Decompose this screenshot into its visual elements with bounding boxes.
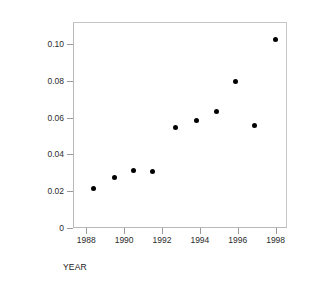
x-axis-tick-mark — [86, 228, 87, 234]
data-point — [273, 37, 278, 42]
y-axis-tick-label: 0.10 — [24, 40, 64, 49]
y-axis-tick-label: 0.08 — [24, 77, 64, 86]
data-point — [173, 125, 178, 130]
data-point — [131, 168, 136, 173]
data-point — [194, 118, 199, 123]
x-axis-tick-label: 1998 — [253, 236, 299, 245]
data-point — [150, 169, 155, 174]
data-points-layer — [73, 22, 287, 228]
x-axis-tick-mark — [162, 228, 163, 234]
y-axis-tick: 0 — [67, 228, 73, 229]
y-axis-tick-label: 0.04 — [24, 150, 64, 159]
x-axis-tick-mark — [238, 228, 239, 234]
data-point — [91, 186, 96, 191]
x-axis-tick-mark — [200, 228, 201, 234]
x-axis-tick-mark — [276, 228, 277, 234]
x-axis-tick-mark — [124, 228, 125, 234]
data-point — [112, 175, 117, 180]
y-axis-tick-label: 0.02 — [24, 187, 64, 196]
y-axis-tick-label: 0 — [24, 224, 64, 233]
data-point — [252, 123, 257, 128]
data-point — [233, 79, 238, 84]
data-point — [214, 109, 219, 114]
x-axis-title: YEAR — [63, 263, 87, 272]
scatter-chart-figure: 00.020.040.060.080.101988199019921994199… — [0, 0, 328, 296]
y-axis-tick-label: 0.06 — [24, 114, 64, 123]
